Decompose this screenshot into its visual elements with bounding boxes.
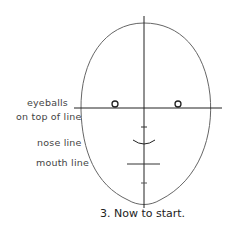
nose-line-label: nose line [37, 137, 82, 148]
left-eyeball [112, 101, 118, 107]
mouth-line-label: mouth line [36, 157, 89, 168]
step-caption: 3. Now to start. [100, 207, 185, 220]
eyeballs-label: eyeballs [27, 97, 68, 108]
on-top-of-line-label: on top of line [16, 111, 82, 122]
head-oval [81, 23, 211, 205]
right-eyeball [175, 101, 181, 107]
